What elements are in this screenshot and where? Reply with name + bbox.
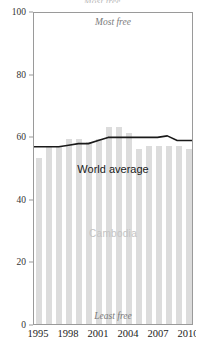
y-tick-label-20: 20 [17, 257, 27, 267]
x-tick-label-2001: 2001 [88, 328, 109, 339]
annotation-least-free: Least free [94, 311, 131, 321]
y-tick-label-40: 40 [17, 195, 27, 205]
y-tick-label-100: 100 [12, 7, 26, 17]
x-tick-label-1995: 1995 [28, 328, 49, 339]
world-average-line-path [34, 136, 192, 147]
y-tick-label-80: 80 [17, 70, 27, 80]
x-tick-label-1998: 1998 [58, 328, 79, 339]
chart-root: Most free 020406080100 Most free World a… [0, 0, 196, 348]
x-tick-label-2007: 2007 [148, 328, 169, 339]
clipped-top-text: Most free [84, 0, 121, 3]
annotation-most-free: Most free [95, 17, 131, 27]
y-axis: 020406080100 [0, 0, 33, 348]
annotation-world-average: World average [77, 163, 148, 175]
y-tick-label-60: 60 [17, 132, 27, 142]
plot-area: Most free World average Cambodia Least f… [33, 12, 193, 325]
x-tick-label-2004: 2004 [118, 328, 139, 339]
x-axis: 199519982001200420072010 [0, 326, 196, 348]
annotation-cambodia: Cambodia [89, 228, 137, 239]
x-tick-label-2010: 2010 [178, 328, 197, 339]
